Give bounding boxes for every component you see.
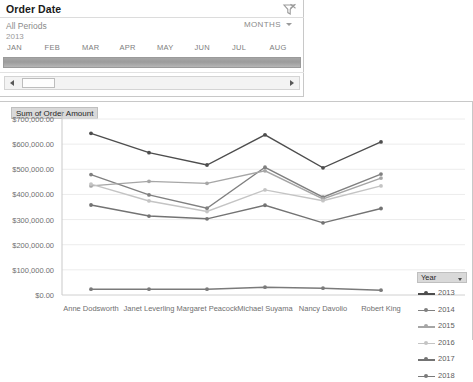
slicer-month-mar[interactable]: MAR [82, 43, 100, 52]
data-point[interactable] [205, 181, 209, 185]
data-point[interactable] [379, 176, 383, 180]
legend-marker-dot [424, 357, 428, 361]
legend-item-2014[interactable]: 2014 [417, 304, 469, 317]
data-point[interactable] [89, 182, 93, 186]
chart-legend: Year 201320142015201620172018 [417, 272, 469, 382]
y-axis-tick-label: $700,000.00 [0, 115, 54, 124]
legend-item-label: 2018 [438, 371, 455, 380]
chevron-down-icon [458, 278, 462, 281]
data-point[interactable] [379, 288, 383, 292]
data-point[interactable] [147, 287, 151, 291]
legend-item-label: 2014 [438, 305, 455, 314]
data-point[interactable] [263, 133, 267, 137]
legend-item-2016[interactable]: 2016 [417, 337, 469, 350]
legend-marker-dot [424, 324, 428, 328]
data-point[interactable] [379, 207, 383, 211]
caret-right-icon [290, 80, 294, 86]
data-point[interactable] [89, 131, 93, 135]
data-point[interactable] [263, 169, 267, 173]
data-point[interactable] [147, 179, 151, 183]
data-point[interactable] [205, 210, 209, 214]
legend-marker-dot [424, 341, 428, 345]
legend-item-label: 2015 [438, 321, 455, 330]
data-point[interactable] [89, 203, 93, 207]
data-point[interactable] [263, 188, 267, 192]
legend-item-label: 2013 [438, 288, 455, 297]
legend-marker-dot [424, 374, 428, 378]
data-point[interactable] [205, 206, 209, 210]
y-axis-tick-label: $100,000.00 [0, 266, 54, 275]
y-axis-tick-label: $200,000.00 [0, 241, 54, 250]
slicer-month-may[interactable]: MAY [157, 43, 174, 52]
data-point[interactable] [205, 287, 209, 291]
slicer-period-label: All Periods [6, 21, 47, 31]
y-axis-tick-label: $300,000.00 [0, 216, 54, 225]
clear-filter-funnel-icon[interactable] [280, 2, 298, 16]
data-point[interactable] [147, 151, 151, 155]
scroll-right-button[interactable] [285, 78, 298, 88]
series-line-2014[interactable] [91, 167, 381, 208]
scroll-left-button[interactable] [6, 78, 19, 88]
data-point[interactable] [89, 287, 93, 291]
y-axis-tick-label: $0.00 [0, 291, 54, 300]
legend-marker-dot [424, 291, 428, 295]
data-point[interactable] [321, 221, 325, 225]
data-point[interactable] [263, 203, 267, 207]
data-point[interactable] [321, 166, 325, 170]
slicer-month-row[interactable]: JANFEBMARAPRMAYJUNJULAUG [0, 43, 304, 56]
legend-item-2013[interactable]: 2013 [417, 287, 469, 300]
data-point[interactable] [205, 163, 209, 167]
slicer-year-label: 2013 [6, 32, 24, 41]
chevron-down-icon[interactable] [286, 23, 292, 26]
slicer-month-apr[interactable]: APR [120, 43, 136, 52]
legend-item-label: 2016 [438, 338, 455, 347]
slicer-selection-band[interactable] [3, 57, 301, 68]
data-point[interactable] [147, 193, 151, 197]
timeline-slicer[interactable]: Order Date All Periods 2013 MONTHS JANFE… [0, 0, 304, 97]
series-line-2013[interactable] [91, 133, 381, 167]
series-line-2017[interactable] [91, 205, 381, 223]
data-point[interactable] [379, 140, 383, 144]
slicer-month-jun[interactable]: JUN [195, 43, 210, 52]
slicer-scrollbar[interactable] [4, 76, 300, 90]
data-point[interactable] [147, 214, 151, 218]
slicer-month-jan[interactable]: JAN [7, 43, 22, 52]
y-axis-tick-label: $600,000.00 [0, 140, 54, 149]
scrollbar-thumb[interactable] [22, 78, 55, 88]
slicer-month-jul[interactable]: JUL [232, 43, 246, 52]
data-point[interactable] [379, 172, 383, 176]
data-point[interactable] [263, 165, 267, 169]
series-line-2018[interactable] [91, 287, 381, 290]
legend-item-2015[interactable]: 2015 [417, 320, 469, 333]
slicer-header-divider [0, 17, 304, 18]
caret-left-icon [10, 80, 14, 86]
legend-field-button[interactable]: Year [417, 272, 467, 283]
data-point[interactable] [147, 199, 151, 203]
data-point[interactable] [379, 184, 383, 188]
x-axis-tick-label: Robert King [346, 304, 416, 313]
data-point[interactable] [205, 217, 209, 221]
legend-item-2017[interactable]: 2017 [417, 353, 469, 366]
data-point[interactable] [321, 286, 325, 290]
slicer-level-selector[interactable]: MONTHS [244, 20, 281, 29]
y-axis-tick-label: $400,000.00 [0, 190, 54, 199]
slicer-title: Order Date [6, 3, 61, 15]
legend-marker-dot [424, 308, 428, 312]
slicer-month-feb[interactable]: FEB [45, 43, 61, 52]
slicer-band-divider [0, 72, 304, 73]
legend-item-2018[interactable]: 2018 [417, 370, 469, 382]
legend-item-label: 2017 [438, 354, 455, 363]
legend-title: Year [421, 273, 436, 282]
pivot-chart-panel: Sum of Order Amount $700,000.00$600,000.… [0, 101, 473, 340]
data-point[interactable] [89, 173, 93, 177]
data-point[interactable] [321, 199, 325, 203]
slicer-month-aug[interactable]: AUG [270, 43, 287, 52]
y-axis-tick-label: $500,000.00 [0, 165, 54, 174]
data-point[interactable] [263, 285, 267, 289]
